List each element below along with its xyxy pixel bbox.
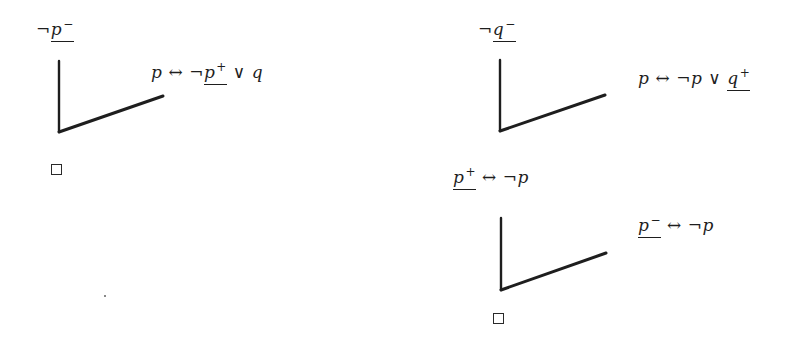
right-bottom-tree-edges — [501, 218, 606, 290]
variable: q — [493, 19, 504, 39]
variable: p — [691, 68, 702, 88]
closed-branch-box-icon — [493, 313, 504, 324]
biconditional-symbol: ↔ — [649, 68, 676, 88]
disjunction-symbol: ∨ — [702, 68, 727, 88]
underlined-literal: p+ — [453, 168, 476, 190]
variable: p — [204, 62, 215, 82]
variable: p — [51, 19, 62, 39]
variable: p — [517, 167, 528, 187]
sign-minus: − — [63, 17, 74, 31]
variable: q — [727, 68, 738, 88]
variable: p — [453, 167, 464, 187]
underlined-literal: p− — [638, 216, 661, 238]
underlined-literal: p+ — [204, 63, 227, 85]
negation-symbol: ¬ — [478, 19, 493, 39]
disjunction-symbol: ∨ — [227, 62, 252, 82]
negation-symbol: ¬ — [688, 215, 703, 235]
tree-edges — [0, 0, 803, 341]
biconditional-symbol: ↔ — [476, 167, 503, 187]
sign-plus: + — [740, 66, 751, 80]
negation-symbol: ¬ — [189, 62, 204, 82]
left-tree-root-formula: ¬p− — [36, 19, 74, 42]
sign-plus: + — [465, 165, 476, 179]
closed-branch-box-icon — [51, 164, 62, 175]
underlined-literal: p− — [51, 20, 74, 42]
diagram-canvas: ¬p− p↔¬p+∨q ¬q− p↔¬p∨q+ p+↔¬p p−↔¬p — [0, 0, 803, 341]
variable: q — [252, 62, 263, 82]
right-top-tree-root-formula: ¬q− — [478, 19, 516, 42]
biconditional-symbol: ↔ — [661, 215, 688, 235]
right-bottom-tree-root-formula: p+↔¬p — [453, 167, 529, 190]
right-top-tree-branch-formula: p↔¬p∨q+ — [638, 68, 750, 91]
underlined-literal: q− — [493, 20, 516, 42]
variable: p — [638, 215, 649, 235]
biconditional-symbol: ↔ — [162, 62, 189, 82]
left-tree-edges — [59, 61, 163, 132]
negation-symbol: ¬ — [503, 167, 518, 187]
left-tree-branch-formula: p↔¬p+∨q — [151, 62, 263, 85]
negation-symbol: ¬ — [36, 19, 51, 39]
sign-minus: − — [505, 17, 516, 31]
variable: p — [151, 62, 162, 82]
scan-artifact-speck — [104, 295, 106, 297]
variable: p — [638, 68, 649, 88]
negation-symbol: ¬ — [676, 68, 691, 88]
right-bottom-tree-branch-formula: p−↔¬p — [638, 215, 714, 238]
sign-plus: + — [216, 60, 227, 74]
right-top-tree-edges — [500, 60, 605, 131]
variable: p — [702, 215, 713, 235]
sign-minus: − — [650, 213, 661, 227]
underlined-literal: q+ — [727, 69, 750, 91]
